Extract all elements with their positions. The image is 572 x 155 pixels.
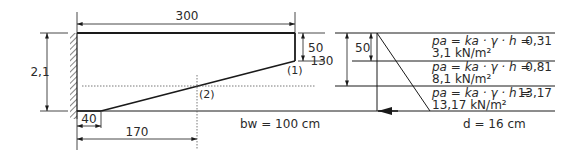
point-1-label: (1): [287, 64, 303, 77]
dim-p50-label: 50: [355, 41, 370, 55]
svg-text:13,17 kN/m²: 13,17 kN/m²: [432, 98, 507, 112]
dim-130-label: 130: [311, 54, 334, 68]
pressure-slope: [377, 33, 430, 111]
slab-outline: [77, 33, 295, 111]
pressure-row-1: pa = ka · γ · h = 0,31 3,1 kN/m²: [431, 34, 552, 60]
pressure-row-2: pa = ka · γ · h = 0,81 8,1 kN/m²: [431, 60, 552, 86]
svg-text:8,1 kN/m²: 8,1 kN/m²: [432, 72, 492, 86]
pressure-row-3: pa = ka · γ · h = 13,17 13,17 kN/m²: [431, 86, 552, 112]
dim-40-label: 40: [81, 112, 96, 126]
dim-170-label: 170: [126, 125, 149, 139]
svg-text:3,1 kN/m²: 3,1 kN/m²: [432, 46, 492, 60]
svg-text:13,17: 13,17: [518, 86, 552, 100]
d-label: d = 16 cm: [463, 117, 526, 131]
svg-text:0,31: 0,31: [525, 34, 552, 48]
point-2-label: (2): [199, 88, 215, 101]
retaining-wall-diagram: 300 2,1 50 (1) (2) 40 170 bw = 100 cm 13…: [0, 0, 572, 155]
dim-50-label: 50: [308, 41, 323, 55]
wall-hatch: [70, 33, 77, 119]
dim-300-label: 300: [176, 9, 199, 23]
svg-text:0,81: 0,81: [525, 60, 552, 74]
bw-label: bw = 100 cm: [240, 117, 320, 131]
dim-height-label: 2,1: [30, 65, 49, 79]
